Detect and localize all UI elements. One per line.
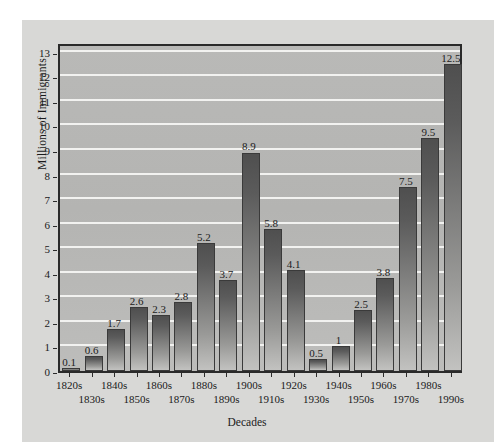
- x-axis-tick-mark: [69, 373, 70, 377]
- y-axis-tick-mark: [53, 348, 57, 349]
- x-axis-tick-label: 1980s: [408, 379, 448, 391]
- x-axis-tick-mark: [204, 373, 205, 377]
- y-axis-tick-mark: [53, 152, 57, 153]
- bar-value-label: 2.5: [345, 298, 377, 310]
- x-axis-tick-label: 1990s: [431, 393, 471, 405]
- x-axis-tick-label: 1900s: [229, 379, 269, 391]
- bar-value-label: 4.1: [278, 258, 310, 270]
- y-axis-tick-mark: [53, 177, 57, 178]
- gridline: [60, 50, 460, 52]
- bar: [62, 368, 80, 371]
- y-axis-tick-label: 13: [28, 48, 50, 59]
- x-axis-tick-label: 1820s: [49, 379, 89, 391]
- chart-figure: Millions of Immigrants 01234567891011121…: [0, 0, 494, 442]
- x-axis-tick-label: 1840s: [94, 379, 134, 391]
- bar: [421, 138, 439, 371]
- bar-value-label: 2.3: [143, 303, 175, 315]
- x-axis-tick-mark: [249, 373, 250, 377]
- y-axis-tick-mark: [53, 324, 57, 325]
- x-axis-tick-mark: [316, 373, 317, 377]
- bar: [152, 315, 170, 371]
- y-axis-tick-label: 7: [28, 195, 50, 206]
- bar: [309, 359, 327, 371]
- bar-value-label: 1: [323, 334, 355, 346]
- x-axis-tick-label: 1970s: [386, 393, 426, 405]
- x-axis-tick-mark: [428, 373, 429, 377]
- bar: [197, 243, 215, 371]
- bar: [376, 278, 394, 371]
- bar: [444, 64, 462, 371]
- bar-value-label: 0.6: [76, 344, 108, 356]
- bar-value-label: 0.5: [300, 347, 332, 359]
- x-axis-tick-label: 1880s: [184, 379, 224, 391]
- bar: [107, 329, 125, 371]
- y-axis-tick-mark: [53, 250, 57, 251]
- x-axis-tick-mark: [406, 373, 407, 377]
- bar: [332, 346, 350, 371]
- x-axis-tick-label: 1930s: [296, 393, 336, 405]
- bar: [85, 356, 103, 371]
- y-axis-tick-mark: [53, 127, 57, 128]
- bar-value-label: 2.8: [165, 290, 197, 302]
- bar-value-label: 9.5: [412, 126, 444, 138]
- y-axis-tick-mark: [53, 78, 57, 79]
- x-axis-tick-mark: [339, 373, 340, 377]
- bar-value-label: 3.7: [210, 268, 242, 280]
- x-axis-tick-label: 1850s: [117, 393, 157, 405]
- x-axis-tick-mark: [114, 373, 115, 377]
- x-axis-tick-label: 1870s: [161, 393, 201, 405]
- x-axis-tick-label: 1920s: [274, 379, 314, 391]
- bar: [264, 229, 282, 371]
- bar-value-label: 5.8: [255, 217, 287, 229]
- x-axis-tick-mark: [361, 373, 362, 377]
- y-axis-tick-label: 8: [28, 171, 50, 182]
- bar-value-label: 3.8: [367, 266, 399, 278]
- y-axis-tick-label: 4: [28, 269, 50, 280]
- x-axis-tick-mark: [383, 373, 384, 377]
- bar-value-label: 0.1: [53, 356, 85, 368]
- x-axis-tick-mark: [271, 373, 272, 377]
- y-axis-tick-label: 1: [28, 342, 50, 353]
- y-axis-tick-label: 2: [28, 318, 50, 329]
- bar: [174, 302, 192, 371]
- y-axis-tick-label: 3: [28, 293, 50, 304]
- x-axis-tick-mark: [451, 373, 452, 377]
- x-axis-tick-mark: [92, 373, 93, 377]
- x-axis-tick-label: 1890s: [206, 393, 246, 405]
- bar: [130, 307, 148, 371]
- x-axis-tick-label: 1830s: [72, 393, 112, 405]
- y-axis-tick-mark: [53, 275, 57, 276]
- x-axis-tick-mark: [159, 373, 160, 377]
- gridline: [60, 74, 460, 76]
- x-axis-tick-label: 1860s: [139, 379, 179, 391]
- y-axis-tick-mark: [53, 299, 57, 300]
- y-axis-tick-mark: [53, 201, 57, 202]
- y-axis-tick-label: 6: [28, 220, 50, 231]
- bar-value-label: 1.7: [98, 317, 130, 329]
- y-axis-tick-label: 9: [28, 146, 50, 157]
- x-axis-tick-mark: [294, 373, 295, 377]
- y-axis-tick-label: 12: [28, 72, 50, 83]
- y-axis-tick-mark: [53, 226, 57, 227]
- bar: [354, 310, 372, 371]
- x-axis-title: Decades: [0, 416, 494, 428]
- y-axis-tick-mark: [53, 373, 57, 374]
- bar: [399, 187, 417, 371]
- y-axis-tick-label: 5: [28, 244, 50, 255]
- bar-value-label: 7.5: [390, 175, 422, 187]
- bar: [219, 280, 237, 371]
- bar: [242, 153, 260, 372]
- x-axis-tick-label: 1910s: [251, 393, 291, 405]
- x-axis-tick-mark: [137, 373, 138, 377]
- y-axis-tick-label: 11: [28, 97, 50, 108]
- y-axis-tick-label: 10: [28, 121, 50, 132]
- y-axis-tick-mark: [53, 54, 57, 55]
- bar-value-label: 5.2: [188, 231, 220, 243]
- x-axis-tick-mark: [226, 373, 227, 377]
- bar-value-label: 12.5: [435, 52, 467, 64]
- gridline: [60, 99, 460, 101]
- x-axis-tick-label: 1950s: [341, 393, 381, 405]
- x-axis-tick-label: 1940s: [319, 379, 359, 391]
- gridline: [60, 123, 460, 125]
- y-axis-tick-label: 0: [28, 367, 50, 378]
